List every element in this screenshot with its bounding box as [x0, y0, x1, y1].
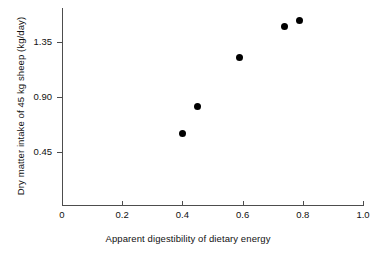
scatter-plot-figure: Dry matter intake of 45 kg sheep (kg/day…: [0, 0, 376, 256]
x-tick-mark: [363, 201, 364, 206]
x-tick-mark: [122, 201, 123, 206]
y-tick-label: 0.90: [12, 92, 52, 102]
x-tick-mark: [182, 201, 183, 206]
y-axis-title: Dry matter intake of 45 kg sheep (kg/day…: [14, 0, 28, 212]
x-tick-label: 0.4: [162, 209, 202, 221]
y-tick-mark: [57, 97, 62, 98]
x-tick-label: 0.8: [283, 209, 323, 221]
y-tick-mark: [57, 152, 62, 153]
data-point: [281, 23, 288, 30]
data-point: [194, 103, 201, 110]
x-tick-label: 0.2: [102, 209, 142, 221]
x-tick-label: 0.6: [223, 209, 263, 221]
y-tick-label: 0.45: [12, 147, 52, 157]
x-tick-mark: [303, 201, 304, 206]
y-tick-mark: [57, 42, 62, 43]
x-axis-title: Apparent digestibility of dietary energy: [0, 233, 376, 244]
data-point: [179, 130, 186, 137]
y-tick-label: 1.35: [12, 37, 52, 47]
x-axis-line: [62, 205, 364, 206]
y-axis-line: [62, 8, 63, 205]
data-point: [236, 54, 243, 61]
x-tick-mark: [243, 201, 244, 206]
data-point: [296, 17, 303, 24]
x-tick-label: 1.0: [343, 209, 376, 221]
x-tick-label: 0: [42, 209, 82, 221]
